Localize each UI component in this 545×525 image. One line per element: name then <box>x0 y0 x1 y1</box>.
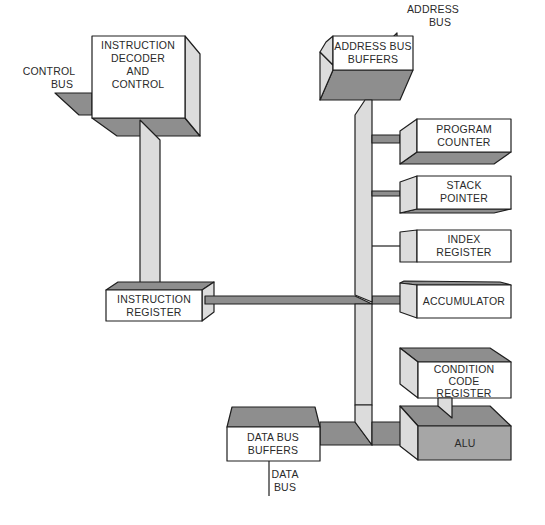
address-bus-label-2: BUS <box>429 16 451 28</box>
condition-code-register-label-2: CODE <box>448 375 479 387</box>
instruction-register-label-2: REGISTER <box>126 306 181 318</box>
instruction-decoder-label-1: INSTRUCTION <box>101 39 175 51</box>
ir-to-accumulator-connector <box>205 296 417 304</box>
program-counter-label-1: PROGRAM <box>436 123 492 135</box>
data-bus-buffers-label-2: BUFFERS <box>248 444 298 456</box>
control-bus-label-2: BUS <box>51 78 73 90</box>
accumulator-label: ACCUMULATOR <box>423 295 506 307</box>
address-bus-buffers-label-2: BUFFERS <box>348 53 398 65</box>
condition-code-register-label-1: CONDITION <box>434 363 495 375</box>
instruction-register-label-1: INSTRUCTION <box>117 293 191 305</box>
stack-pointer-label-1: STACK <box>446 179 481 191</box>
address-bus-buffers-label-1: ADDRESS BUS <box>334 40 411 52</box>
index-register-label-2: REGISTER <box>436 246 491 258</box>
microprocessor-diagram: CONTROL BUS INSTRUCTION DECODER AND CONT… <box>0 0 545 525</box>
address-bus-label-1: ADDRESS <box>407 3 459 15</box>
stack-pointer-label-2: POINTER <box>440 192 488 204</box>
control-bus-connector <box>55 93 92 115</box>
condition-code-register-label-3: REGISTER <box>436 387 491 399</box>
data-bus-label-2: BUS <box>274 481 296 493</box>
program-counter-label-2: COUNTER <box>437 136 491 148</box>
data-bus-label-1: DATA <box>271 468 298 480</box>
instruction-decoder-label-4: CONTROL <box>112 78 165 90</box>
bus-branch-stack-pointer <box>372 191 400 196</box>
index-register-label-1: INDEX <box>447 233 480 245</box>
instruction-decoder-label-3: AND <box>127 65 150 77</box>
alu-label: ALU <box>454 437 475 449</box>
address-bus-vertical <box>355 100 372 405</box>
alu-block <box>400 398 511 460</box>
instruction-decoder-label-2: DECODER <box>111 52 165 64</box>
data-bus-buffers-label-1: DATA BUS <box>247 431 299 443</box>
control-bus-label-1: CONTROL <box>23 65 76 77</box>
decoder-to-ir-connector <box>140 120 160 286</box>
bus-branch-program-counter <box>372 135 400 143</box>
